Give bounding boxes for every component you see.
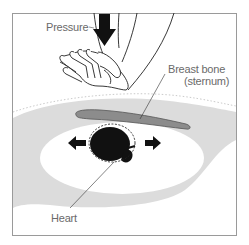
cpr-diagram: Pressure Breast bone (sternum) Heart bbox=[0, 0, 249, 245]
heart bbox=[89, 124, 135, 162]
breast-bone-label: Breast bone bbox=[168, 64, 225, 75]
heart-label: Heart bbox=[51, 213, 77, 224]
pressure-label: Pressure bbox=[46, 22, 88, 33]
sternum-label: (sternum) bbox=[184, 76, 229, 87]
diagram-svg bbox=[0, 0, 249, 245]
